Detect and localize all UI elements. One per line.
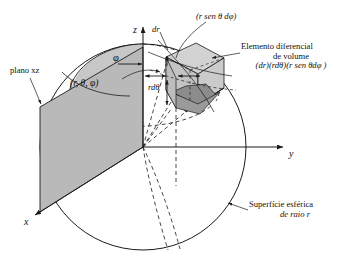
volume-element-callout: Elemento diferencial de volume (dr)(rdθ)… — [241, 42, 341, 71]
coordinate-triple-label: (r, θ, φ) — [70, 78, 98, 89]
volume-element-line-3: (dr)(rdθ)(r sen θdφ ) — [241, 61, 341, 71]
spherical-coordinates-figure: z y x plano xz φ (r, θ, φ) rdθ dr (r sen… — [0, 0, 343, 264]
r-dtheta-label: rdθ — [148, 83, 159, 93]
sphere-surface-callout: Superfície esférica de raio r — [249, 200, 341, 219]
z-axis-label: z — [133, 24, 137, 35]
plane-label-leader — [30, 78, 41, 104]
plano-xz-label: plano xz — [10, 66, 39, 76]
phi-angle-label: φ — [113, 52, 119, 64]
sphere-label-leader — [228, 203, 248, 210]
arc-r-sin-theta-dphi-label: (r sen θ dφ) — [196, 12, 236, 22]
sphere-surface-line-2: de raio r — [249, 210, 341, 220]
figure-drawing — [0, 0, 343, 264]
plano-xz-text: plano xz — [10, 65, 39, 75]
dr-label: dr — [152, 25, 160, 35]
x-axis-label: x — [24, 216, 28, 227]
y-axis-label: y — [289, 148, 293, 159]
